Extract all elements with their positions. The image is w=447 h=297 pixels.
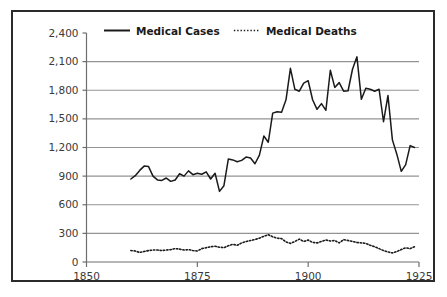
- y-tick-label-1500: 1,500: [48, 112, 78, 124]
- legend-label-medical-deaths: Medical Deaths: [266, 25, 357, 37]
- series-line-medical-cases: [131, 57, 415, 192]
- x-tick-label-1925: 1925: [406, 270, 433, 282]
- x-tick-label-1850: 1850: [73, 270, 100, 282]
- y-axis-tick-group: 03006009001,2001,5001,8002,1002,400: [48, 27, 86, 268]
- series-line-medical-deaths: [131, 235, 415, 253]
- y-tick-label-1800: 1,800: [48, 84, 78, 96]
- data-series-group: [131, 57, 415, 253]
- y-tick-label-0: 0: [72, 256, 79, 268]
- medical-cases-deaths-line-chart: 03006009001,2001,5001,8002,1002,400 1850…: [0, 0, 447, 297]
- y-tick-label-2400: 2,400: [48, 27, 78, 39]
- x-tick-label-1900: 1900: [295, 270, 322, 282]
- y-tick-label-2100: 2,100: [48, 55, 78, 67]
- y-tick-label-900: 900: [58, 170, 78, 182]
- y-tick-label-300: 300: [58, 227, 78, 239]
- x-axis-tick-group: 1850187519001925: [73, 262, 432, 282]
- chart-figure: 03006009001,2001,5001,8002,1002,400 1850…: [0, 0, 447, 297]
- chart-legend: Medical CasesMedical Deaths: [104, 25, 357, 37]
- y-tick-label-1200: 1,200: [48, 141, 78, 153]
- x-tick-label-1875: 1875: [184, 270, 211, 282]
- legend-label-medical-cases: Medical Cases: [136, 25, 220, 37]
- y-tick-label-600: 600: [58, 198, 78, 210]
- gridlines-group: [87, 62, 420, 234]
